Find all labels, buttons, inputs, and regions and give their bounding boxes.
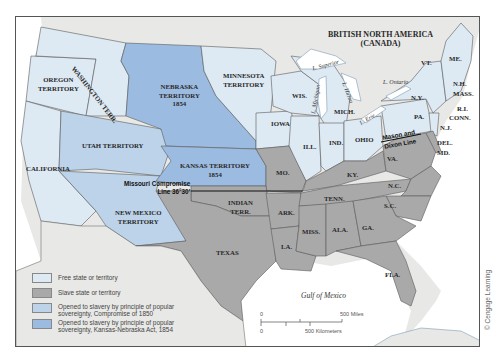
legend-text: Opened to slavery by principle of popula… bbox=[58, 319, 198, 333]
label-minnesota: MINNESOTATERRITORY bbox=[223, 72, 264, 89]
label-miss: MISS. bbox=[302, 228, 320, 237]
legend-item-kansas-nebraska: Opened to slavery by principle of popula… bbox=[32, 319, 198, 333]
scale-miles-label: 500 Miles bbox=[340, 311, 364, 317]
label-british-north-america: BRITISH NORTH AMERICA(CANADA) bbox=[328, 31, 433, 48]
legend-item-free: Free state or territory bbox=[32, 273, 228, 283]
label-texas: TEXAS bbox=[216, 249, 239, 258]
legend-item-compromise-1850: Opened to slavery by principle of popula… bbox=[32, 303, 198, 317]
label-mass: MASS. bbox=[453, 90, 474, 99]
copyright-credit: © Cengage Learning bbox=[484, 270, 491, 330]
label-california: CALIFORNIA bbox=[26, 165, 70, 174]
scale-zero-miles: 0 bbox=[260, 311, 263, 317]
label-pa: PA. bbox=[414, 113, 424, 122]
label-ga: GA. bbox=[362, 224, 374, 233]
scale-bar-graphic bbox=[260, 319, 355, 327]
label-ala: ALA. bbox=[332, 226, 348, 235]
label-nc: N.C. bbox=[388, 182, 401, 191]
scale-zero-km: 0 bbox=[260, 328, 263, 334]
label-nebraska: NEBRASKATERRITORY1854 bbox=[159, 83, 200, 109]
label-iowa: IOWA bbox=[271, 120, 290, 129]
swatch-slave bbox=[32, 288, 52, 298]
label-nh: N.H. bbox=[453, 80, 467, 89]
label-fla: FLA. bbox=[385, 271, 400, 280]
label-ky: KY. bbox=[347, 171, 358, 180]
label-ill: ILL. bbox=[303, 143, 316, 152]
label-missouri-compromise: Missouri CompromiseLine 36°30′ bbox=[124, 180, 190, 195]
legend-item-slave: Slave state or territory bbox=[32, 288, 228, 298]
swatch-compromise-1850 bbox=[32, 303, 52, 313]
label-ohio: OHIO bbox=[355, 136, 374, 145]
label-tenn: TENN. bbox=[324, 195, 345, 204]
legend-text: Slave state or territory bbox=[58, 288, 228, 296]
swatch-kansas-nebraska bbox=[32, 319, 52, 329]
label-md: MD. bbox=[437, 149, 450, 158]
scale-km-label: 500 Kilometers bbox=[305, 328, 342, 334]
label-ny: N.Y. bbox=[411, 94, 424, 103]
label-nj: N.J. bbox=[440, 124, 452, 133]
legend-text: Free state or territory bbox=[58, 273, 228, 281]
label-gulf-of-mexico: Gulf of Mexico bbox=[301, 292, 346, 301]
legend-text: Opened to slavery by principle of popula… bbox=[58, 303, 198, 317]
label-me: ME. bbox=[449, 55, 462, 64]
label-vt: VT. bbox=[421, 59, 432, 68]
swatch-free bbox=[32, 273, 52, 283]
label-mo: MO. bbox=[276, 169, 289, 178]
label-wis: WIS. bbox=[292, 92, 307, 101]
label-ri: R.I. bbox=[457, 105, 468, 114]
label-conn: CONN. bbox=[449, 114, 471, 123]
label-lake-ontario: L. Ontario bbox=[383, 78, 408, 87]
label-sc: S.C. bbox=[384, 202, 396, 211]
label-kansas: KANSAS TERRITORY1854 bbox=[180, 162, 250, 179]
label-ark: ARK. bbox=[278, 209, 295, 218]
label-utah: UTAH TERRITORY bbox=[82, 142, 144, 151]
label-oregon: OREGONTERRITORY bbox=[38, 76, 79, 93]
label-new-mexico: NEW MEXICOTERRITORY bbox=[115, 209, 162, 226]
label-va: VA. bbox=[387, 155, 398, 164]
label-del: DEL. bbox=[437, 139, 453, 148]
label-indian-territory: INDIANTERR. bbox=[228, 199, 253, 216]
label-la: LA. bbox=[281, 243, 292, 252]
label-mich: MICH. bbox=[334, 108, 355, 117]
label-ind: IND. bbox=[329, 139, 343, 148]
